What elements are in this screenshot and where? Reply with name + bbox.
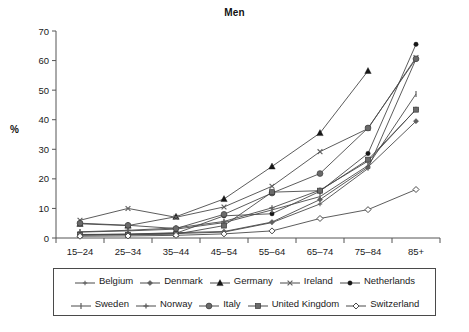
- y-tick-label: 70: [38, 26, 49, 37]
- series-denmark: [77, 119, 418, 237]
- legend-marker-icon: [198, 300, 220, 312]
- legend-label: United Kingdom: [272, 298, 340, 310]
- y-tick-label: 20: [38, 173, 49, 184]
- legend-label: Switzerland: [370, 298, 419, 310]
- y-tick-label: 40: [38, 114, 49, 125]
- legend-item-united-kingdom[interactable]: United Kingdom: [244, 298, 343, 310]
- legend-marker-icon: [209, 277, 231, 289]
- x-tick-label: 25–34: [115, 246, 141, 257]
- legend-item-netherlands[interactable]: Netherlands: [336, 275, 418, 287]
- legend-marker-norway-icon: [135, 298, 157, 310]
- legend-marker-icon: [135, 300, 157, 312]
- x-tick-label: 55–64: [259, 246, 285, 257]
- legend-label: Netherlands: [364, 275, 415, 287]
- chart-figure: Men % 010203040506070 15–2425–3435–4445–…: [0, 0, 469, 332]
- y-tick-labels: 010203040506070: [38, 26, 49, 244]
- legend-marker-switzerland-icon: [345, 298, 367, 310]
- legend-label: Sweden: [95, 298, 129, 310]
- legend-marker-germany-icon: [209, 275, 231, 287]
- x-tick-label: 35–44: [163, 246, 189, 257]
- legend-marker-netherlands-icon: [339, 275, 361, 287]
- legend-marker-icon: [139, 277, 161, 289]
- legend-item-ireland[interactable]: Ireland: [276, 275, 336, 287]
- y-tick-label: 30: [38, 144, 49, 155]
- legend-marker-icon: [70, 300, 92, 312]
- x-tick-label: 85+: [408, 246, 425, 257]
- data-series: [77, 42, 419, 239]
- legend-marker-icon: [339, 277, 361, 289]
- legend-label: Italy: [223, 298, 240, 310]
- legend-marker-ireland-icon: [279, 275, 301, 287]
- legend-marker-belgium-icon: [74, 275, 96, 287]
- legend-label: Norway: [160, 298, 192, 310]
- legend-label: Belgium: [99, 275, 133, 287]
- series-italy: [77, 56, 419, 232]
- legend-marker-icon: [279, 277, 301, 289]
- legend-marker-icon: [345, 300, 367, 312]
- x-tick-label: 75–84: [355, 246, 381, 257]
- x-tick-labels: 15–2425–3435–4445–5455–6465–7475–8485+: [67, 246, 425, 257]
- legend-item-norway[interactable]: Norway: [132, 298, 195, 310]
- legend-item-italy[interactable]: Italy: [195, 298, 243, 310]
- legend-item-switzerland[interactable]: Switzerland: [342, 298, 422, 310]
- x-tick-label: 15–24: [67, 246, 93, 257]
- y-tick-label: 50: [38, 85, 49, 96]
- legend-marker-icon: [74, 277, 96, 289]
- legend-marker-icon: [247, 300, 269, 312]
- y-tick-label: 60: [38, 55, 49, 66]
- y-tick-label: 10: [38, 203, 49, 214]
- legend-label: Denmark: [164, 275, 203, 287]
- legend-row-2: SwedenNorwayItalyUnited KingdomSwitzerla…: [54, 292, 435, 315]
- legend-item-germany[interactable]: Germany: [206, 275, 276, 287]
- legend-item-denmark[interactable]: Denmark: [136, 275, 206, 287]
- legend-marker-united-kingdom-icon: [247, 298, 269, 310]
- x-tick-label: 65–74: [307, 246, 333, 257]
- series-ireland: [78, 55, 419, 222]
- x-tick-label: 45–54: [211, 246, 237, 257]
- legend-item-belgium[interactable]: Belgium: [71, 275, 136, 287]
- axes: [56, 31, 440, 238]
- legend-marker-sweden-icon: [70, 298, 92, 310]
- legend-label: Germany: [234, 275, 273, 287]
- chart-legend: BelgiumDenmarkGermanyIrelandNetherlands …: [53, 268, 436, 316]
- y-tick-label: 0: [44, 233, 49, 244]
- legend-item-sweden[interactable]: Sweden: [67, 298, 132, 310]
- legend-label: Ireland: [304, 275, 333, 287]
- legend-marker-italy-icon: [198, 298, 220, 310]
- legend-marker-denmark-icon: [139, 275, 161, 287]
- legend-row-1: BelgiumDenmarkGermanyIrelandNetherlands: [54, 269, 435, 292]
